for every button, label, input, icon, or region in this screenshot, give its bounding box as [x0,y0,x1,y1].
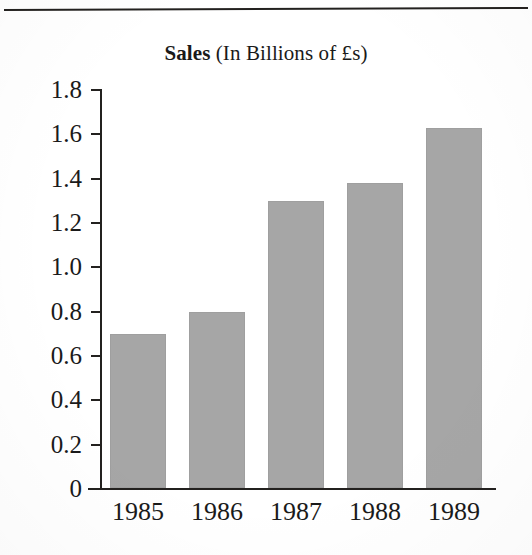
y-axis-tick-label: 0.8 [26,299,82,324]
y-axis-tick [91,488,102,490]
y-axis-tick-label: 1.0 [26,254,82,279]
y-axis-tick-label-wrap: 1.4 [20,166,82,191]
x-axis-label: 1989 [414,497,494,527]
y-axis-tick [91,178,102,180]
y-axis-tick [91,266,102,268]
x-axis-label: 1987 [256,497,336,527]
bar-1987 [268,201,324,488]
y-axis-line [100,89,102,489]
y-axis-tick-label: 0.4 [26,387,82,412]
y-axis-tick-label-wrap: 1.6 [20,121,82,146]
bar-1989 [426,128,482,488]
bar-1988 [347,183,403,488]
y-axis-tick-label: 0 [26,476,82,501]
y-axis-tick [91,133,102,135]
y-axis-tick [91,355,102,357]
y-axis-tick-label: 1.8 [26,77,82,102]
x-axis-line [88,488,496,490]
plot-area: 1.81.61.41.21.00.80.60.40.20 19851986198… [0,0,532,555]
y-axis-tick [91,399,102,401]
y-axis-tick-label: 0.2 [26,432,82,457]
x-axis-label: 1988 [335,497,415,527]
x-axis-label: 1985 [98,497,178,527]
y-axis-tick-label-wrap: 0.8 [20,299,82,324]
y-axis-tick-label: 0.6 [26,343,82,368]
y-axis-tick-label-wrap: 0.6 [20,343,82,368]
bar-1985 [110,334,166,488]
y-axis-tick [91,222,102,224]
y-axis-tick [91,311,102,313]
y-axis-tick-label: 1.4 [26,166,82,191]
y-axis-tick-label: 1.6 [26,121,82,146]
y-axis-tick [91,444,102,446]
y-axis-tick-label-wrap: 1.8 [20,77,82,102]
y-axis-tick [91,89,102,91]
x-axis-label: 1986 [177,497,257,527]
y-axis-tick-label: 1.2 [26,210,82,235]
bar-1986 [189,312,245,488]
y-axis-tick-label-wrap: 1.0 [20,254,82,279]
y-axis-tick-label-wrap: 0.4 [20,387,82,412]
sales-bar-chart-figure: Sales (In Billions of £s) 1.81.61.41.21.… [0,0,532,555]
y-axis-tick-label-wrap: 1.2 [20,210,82,235]
y-axis-tick-label-wrap: 0.2 [20,432,82,457]
y-axis-tick-label-wrap: 0 [20,476,82,501]
